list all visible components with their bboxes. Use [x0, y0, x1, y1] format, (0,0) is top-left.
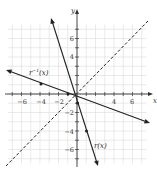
- x-axis-label: x: [153, 97, 157, 105]
- y-tick-label: 6: [70, 35, 74, 43]
- r-point: [76, 102, 79, 105]
- x-tick-label: 6: [130, 98, 134, 106]
- r-inverse-label-sup: −1: [32, 68, 39, 73]
- identity-line: [6, 20, 149, 166]
- r-inverse-arrow-right-icon: [144, 119, 150, 124]
- y-tick-label: −2: [64, 109, 74, 117]
- y-axis-arrow-icon: [75, 9, 79, 14]
- y-tick-label: 4: [70, 53, 74, 61]
- graph-canvas: −6 −4 −2 4 6 6 4 −2 −4 −6 y x r−1(x) r(x…: [0, 0, 157, 174]
- r-inverse-arrow-left-icon: [6, 70, 12, 75]
- r-inverse-point: [40, 83, 43, 86]
- x-tick-label: −4: [36, 98, 46, 106]
- r-arrow-top-icon: [51, 18, 56, 24]
- x-tick-label: −2: [54, 98, 64, 106]
- x-tick-label: −6: [17, 98, 27, 106]
- r-arrow-bottom-icon: [94, 161, 99, 167]
- r-label: r(x): [94, 142, 107, 150]
- x-tick-label: 4: [112, 98, 116, 106]
- x-axis-arrow-icon: [148, 92, 153, 96]
- r-point: [85, 130, 88, 133]
- axes: [5, 9, 153, 167]
- r-inverse-label-arg: (x): [39, 69, 49, 77]
- y-tick-label: −4: [64, 128, 74, 136]
- x-tick-labels: −6 −4 −2 4 6: [17, 98, 134, 106]
- r-inverse-label: r−1(x): [29, 68, 49, 77]
- y-tick-label: −6: [64, 146, 74, 154]
- r-inverse-point: [67, 93, 70, 96]
- r-inverse-line: [9, 71, 147, 122]
